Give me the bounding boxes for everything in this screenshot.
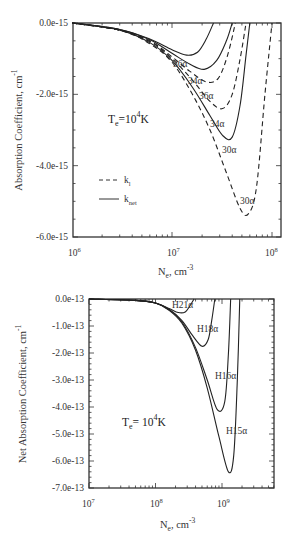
bottom-xtick-label: 109 [217,497,230,509]
curve-label: 36α [173,59,188,69]
top-xtick-label: 107 [167,246,181,258]
top-legend: kl knet [99,175,137,206]
bottom-ytick-label: -5.0e-13 [52,429,84,439]
bottom-plot-frame [89,299,274,488]
bottom-ytick-label: -7.0e-13 [52,483,84,493]
bottom-x-axis-title: Ne, cm-3 [160,516,196,533]
curve-label: H15α [226,426,247,436]
top-chart: 0.0e-15 -2.0e-15 -4.0e-15 -6.0e-15 106 1… [10,18,281,280]
legend-label-knet: knet [124,194,137,206]
bottom-xtick-label: 108 [150,497,163,509]
top-curves [72,23,272,216]
curve-34α-k_l [72,23,246,109]
figure: 0.0e-15 -2.0e-15 -4.0e-15 -6.0e-15 106 1… [0,0,294,550]
top-xtick-label: 106 [68,246,82,258]
curve-30α-k_l [72,23,272,216]
bottom-ytick-label: -2.0e-13 [52,348,84,358]
bottom-ticks [89,299,274,488]
curve-label: H21α [172,300,193,310]
top-ytick-label: -2.0e-15 [36,89,68,99]
curve-label: 30α [240,196,255,206]
top-ytick-label: 0.0e-15 [39,18,68,28]
curve-34α-k_net [72,23,232,69]
curve-36α-k_l [72,23,235,82]
bottom-ytick-label: 0.0e-13 [55,294,84,304]
bottom-temperature-annotation: Te= 104K [122,413,166,431]
bottom-y-axis-title: Net Absorption Coefficient, cm-1 [14,325,28,464]
bottom-xtick-label: 107 [82,497,96,509]
bottom-ytick-label: -3.0e-13 [52,375,84,385]
top-x-axis-title: Ne, cm-3 [158,263,194,280]
top-temperature-annotation: Te=104K [108,110,150,128]
top-ytick-label: -6.0e-15 [36,232,68,242]
top-ytick-label: -4.0e-15 [36,161,68,171]
curve-label: H18α [197,324,218,334]
bottom-chart: 0.0e-13 -1.0e-13 -2.0e-13 -3.0e-13 -4.0e… [14,294,274,533]
bottom-ytick-label: -1.0e-13 [52,321,84,331]
curve-label: 34α [210,119,225,129]
legend-label-kl: kl [124,175,131,187]
bottom-ytick-label: -4.0e-13 [52,402,84,412]
curve-H18α [89,299,215,346]
curve-label: 30α [222,145,237,155]
bottom-ytick-label: -6.0e-13 [52,456,84,466]
curve-label: 36α [199,91,214,101]
top-xtick-label: 108 [265,246,278,258]
curve-label: H16α [215,371,236,381]
curve-label: 34α [188,76,203,86]
top-y-axis-title: Absorption Coefficient, cm-1 [10,69,24,190]
